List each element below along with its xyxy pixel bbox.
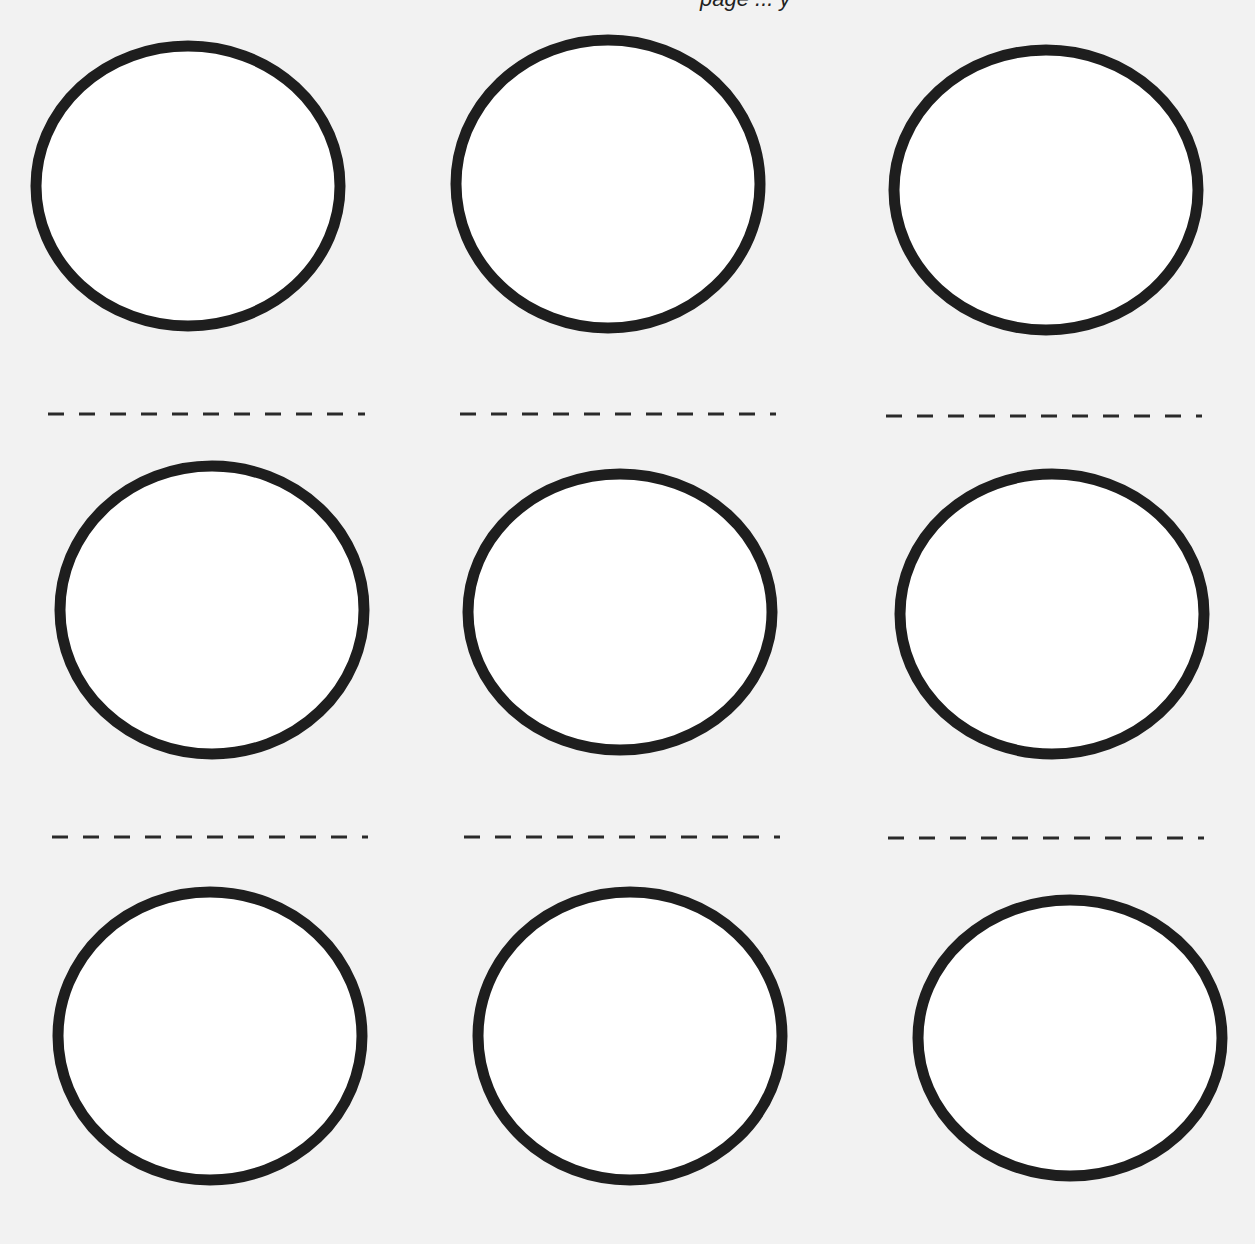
hand-drawn-circle [60, 466, 364, 754]
hand-drawn-circle [900, 474, 1204, 754]
hand-drawn-circle [36, 46, 340, 326]
hand-drawn-circle [478, 892, 782, 1180]
hand-drawn-circle [468, 474, 772, 750]
hand-drawn-circle [456, 40, 760, 328]
hand-drawn-circle [58, 892, 362, 1180]
drawing-canvas [0, 0, 1255, 1244]
hand-drawn-circle [918, 900, 1222, 1176]
hand-drawn-circle [894, 50, 1198, 330]
circle-grid [0, 0, 1255, 1244]
